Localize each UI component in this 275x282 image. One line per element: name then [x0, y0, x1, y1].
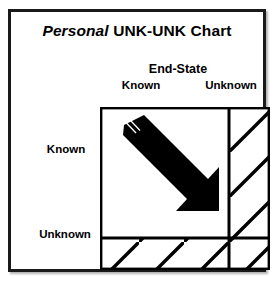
page-title: Personal UNK-UNK Chart — [11, 22, 263, 40]
figure-frame: Personal UNK-UNK Chart End-State Known U… — [8, 9, 266, 272]
column-axis-title: End-State — [93, 62, 263, 76]
column-label-known: Known — [109, 79, 173, 91]
row-label-unknown: Unknown — [25, 228, 105, 240]
row-label-known: Known — [31, 143, 101, 155]
matrix-grid — [100, 107, 270, 270]
page-title-emphasis: Personal — [42, 22, 108, 39]
page-title-rest: UNK-UNK Chart — [109, 22, 232, 39]
column-label-unknown: Unknown — [195, 79, 267, 91]
